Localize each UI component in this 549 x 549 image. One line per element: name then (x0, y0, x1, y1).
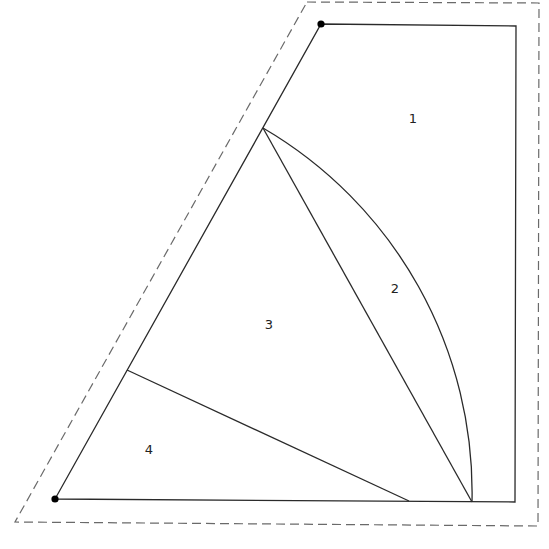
lower-cut (127, 370, 409, 501)
region-3-label: 3 (265, 317, 273, 332)
region-4-label: 4 (145, 442, 153, 457)
dashed-outline (15, 2, 539, 526)
region-1-label: 1 (409, 111, 417, 126)
top-left-vertex-dot (317, 20, 324, 27)
dissection-diagram: 1 2 3 4 (0, 0, 549, 549)
diagonal-cut (263, 128, 472, 502)
bottom-left-vertex-dot (51, 495, 58, 502)
region-2-label: 2 (391, 281, 399, 296)
outer-shape (55, 24, 516, 502)
